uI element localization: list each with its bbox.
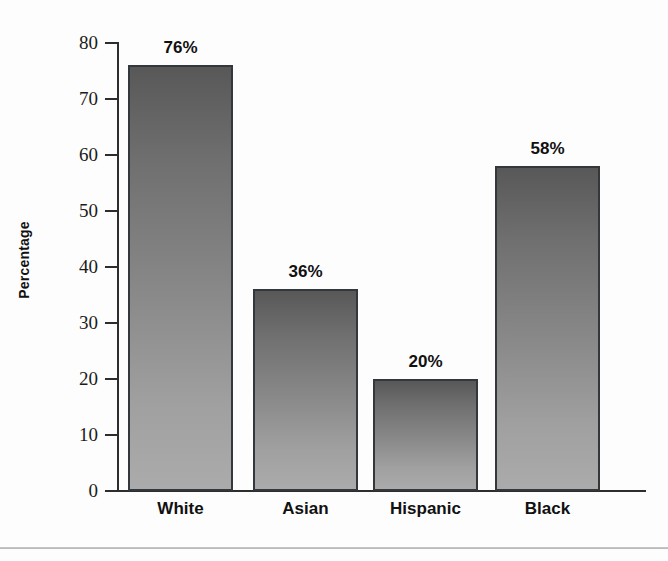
y-axis-title: Percentage (16, 200, 32, 320)
bar-asian (253, 289, 358, 491)
y-axis-tick-label: 60 (40, 145, 98, 164)
y-axis-tick (105, 434, 119, 436)
bar-value-label: 20% (373, 353, 478, 370)
y-axis-tick-label: 0 (40, 481, 98, 500)
bar-value-label: 36% (253, 263, 358, 280)
y-axis-tick-label: 10 (40, 425, 98, 444)
y-axis-tick (105, 210, 119, 212)
y-axis-tick (105, 98, 119, 100)
y-axis-tick (105, 266, 119, 268)
y-axis-tick-label: 30 (40, 313, 98, 332)
y-axis-tick-label: 50 (40, 201, 98, 220)
y-axis-tick (105, 322, 119, 324)
bar-white (128, 65, 233, 491)
bar-black (495, 166, 600, 491)
x-axis-category-label: Hispanic (373, 500, 478, 517)
y-axis-tick (105, 42, 119, 44)
bar-chart-figure: Percentage 80706050403020100 76%White36%… (0, 0, 668, 561)
y-axis-tick (105, 378, 119, 380)
y-axis-tick (105, 154, 119, 156)
x-axis-category-label: White (128, 500, 233, 517)
page-rule (0, 547, 668, 549)
bar-value-label: 76% (128, 39, 233, 56)
bar-hispanic (373, 379, 478, 491)
y-axis-tick (105, 490, 119, 492)
x-axis-category-label: Asian (253, 500, 358, 517)
bar-value-label: 58% (495, 140, 600, 157)
y-axis-tick-label: 80 (40, 33, 98, 52)
y-axis-tick-label: 70 (40, 89, 98, 108)
y-axis-tick-label: 20 (40, 369, 98, 388)
y-axis-tick-label: 40 (40, 257, 98, 276)
x-axis-category-label: Black (495, 500, 600, 517)
